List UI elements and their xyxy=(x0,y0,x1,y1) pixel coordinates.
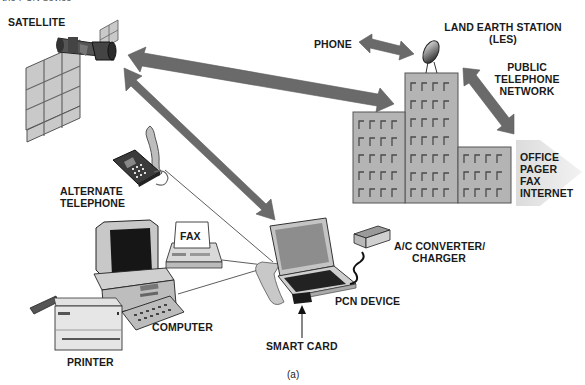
label-printer: PRINTER xyxy=(67,356,114,368)
charger-cable xyxy=(350,252,364,284)
les-building-icon xyxy=(353,38,511,203)
arrow-satellite-to-les xyxy=(128,47,394,112)
arrow-phone-to-les xyxy=(359,34,414,60)
arrow-satellite-to-pcn xyxy=(124,68,275,220)
label-smart-card: SMART CARD xyxy=(266,340,338,352)
label-phone: PHONE xyxy=(314,38,352,50)
smart-card-icon xyxy=(292,292,312,304)
cropped-top-text: the PCN device xyxy=(0,0,110,4)
ac-converter-icon xyxy=(354,226,390,248)
label-satellite: SATELLITE xyxy=(8,16,65,28)
label-land-earth-station: LAND EARTH STATION (LES) xyxy=(426,21,580,45)
smart-card-pointer-arrow xyxy=(298,305,306,338)
figure-caption: (a) xyxy=(287,369,299,380)
solar-panel-left xyxy=(26,40,80,142)
label-services-list: OFFICE PAGER FAX INTERNET xyxy=(520,151,573,199)
line-computer-to-pcn xyxy=(178,270,258,294)
label-pcn-device: PCN DEVICE xyxy=(335,295,400,307)
alternate-telephone-icon xyxy=(113,126,168,187)
label-public-telephone-network: PUBLIC TELEPHONE NETWORK xyxy=(492,61,562,97)
fax-machine-icon xyxy=(166,222,222,268)
label-alternate-telephone: ALTERNATE TELEPHONE xyxy=(60,185,125,209)
label-computer: COMPUTER xyxy=(152,321,213,333)
satellite-icon xyxy=(26,20,118,142)
label-ac-converter: A/C CONVERTER/ CHARGER xyxy=(394,240,484,264)
label-fax: FAX xyxy=(180,230,201,242)
printer-icon xyxy=(30,296,122,350)
pcn-system-diagram: the PCN device xyxy=(0,0,585,385)
